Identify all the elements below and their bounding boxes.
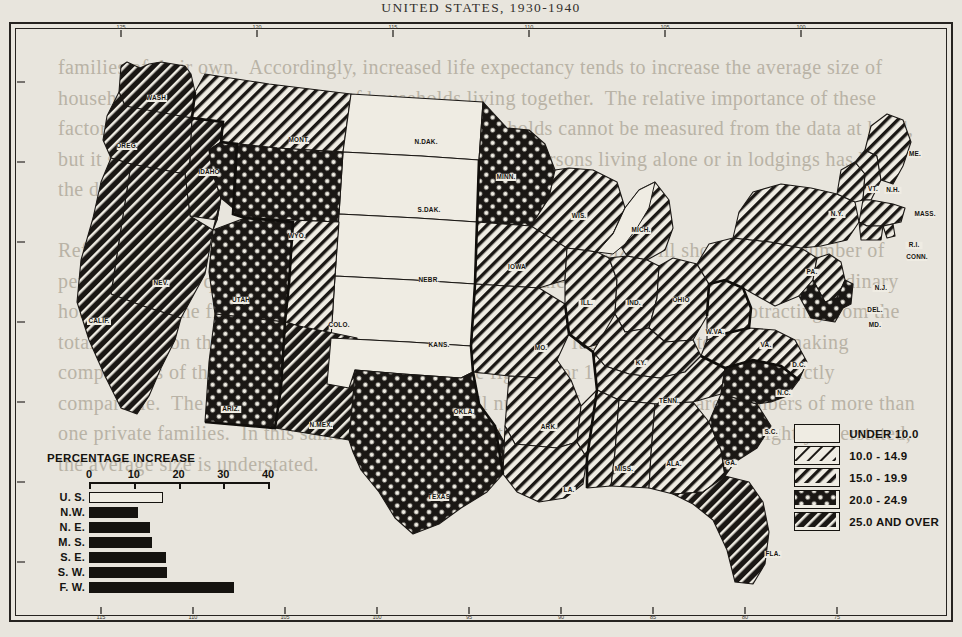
bar-fw bbox=[89, 582, 234, 593]
state-label: N.C. bbox=[777, 389, 791, 396]
bar-track bbox=[89, 492, 282, 503]
state-label: KY. bbox=[636, 359, 647, 366]
bar-us bbox=[89, 492, 163, 503]
state-label: TENN. bbox=[659, 397, 679, 404]
axis-tick-label-20: 20 bbox=[172, 468, 184, 480]
bar-row: S. E. bbox=[47, 551, 282, 565]
svg-text:100: 100 bbox=[372, 614, 381, 620]
state-label: MICH. bbox=[631, 226, 650, 233]
state-label: OHIO bbox=[672, 296, 689, 303]
svg-text:110: 110 bbox=[189, 614, 198, 620]
legend-swatch-crosshatch bbox=[794, 490, 840, 509]
bar-row: N.W. bbox=[47, 506, 282, 520]
bar-label: N.W. bbox=[47, 506, 89, 518]
bar-label: U. S. bbox=[47, 491, 89, 503]
legend-label: 10.0 - 14.9 bbox=[849, 450, 907, 462]
state-ndak bbox=[343, 94, 483, 160]
page-title-text: UNITED STATES, 1930-1940 bbox=[381, 0, 580, 15]
state-label: IND. bbox=[627, 299, 641, 306]
svg-text:110: 110 bbox=[525, 24, 534, 30]
state-label: NEV. bbox=[153, 279, 168, 286]
state-label: N.Y. bbox=[831, 210, 844, 217]
bar-row: N. E. bbox=[47, 521, 282, 535]
state-label: ARIZ. bbox=[222, 405, 240, 412]
state-label: MONT. bbox=[289, 136, 310, 143]
bar-track bbox=[89, 582, 282, 593]
state-label: KANS. bbox=[429, 341, 450, 348]
state-label: WYO. bbox=[288, 232, 306, 239]
svg-text:125: 125 bbox=[116, 24, 125, 30]
bar-track bbox=[89, 522, 282, 533]
svg-text:105: 105 bbox=[660, 24, 669, 30]
bar-track bbox=[89, 507, 282, 518]
bar-ne bbox=[89, 522, 150, 533]
state-label: FLA. bbox=[766, 550, 781, 557]
state-label: VT. bbox=[868, 185, 878, 192]
axis-tick-label-10: 10 bbox=[128, 468, 140, 480]
state-label: CALIF. bbox=[88, 317, 109, 324]
state-label: WASH. bbox=[146, 94, 168, 101]
axis-tick-30 bbox=[223, 482, 225, 489]
bar-label: S. E. bbox=[47, 551, 89, 563]
axis-tick-label-30: 30 bbox=[217, 468, 229, 480]
percentage-increase-inset-chart: PERCENTAGE INCREASE 010203040 U. S.N.W.N… bbox=[47, 452, 282, 594]
inset-chart-axis-labels: 010203040 bbox=[89, 468, 282, 482]
axis-tick-40 bbox=[268, 482, 270, 489]
state-label: ILL. bbox=[581, 299, 593, 306]
state-label: IOWA bbox=[508, 263, 526, 270]
inset-chart-bars: U. S.N.W.N. E.M. S.S. E.S. W.F. W. bbox=[47, 491, 282, 595]
svg-text:100: 100 bbox=[796, 24, 805, 30]
legend-item-2: 10.0 - 14.9 bbox=[794, 446, 939, 465]
state-label: D.C. bbox=[792, 361, 806, 368]
legend-item-5: 25.0 AND OVER bbox=[794, 512, 939, 531]
page-title: UNITED STATES, 1930-1940 bbox=[0, 0, 962, 17]
state-label: DEL. bbox=[867, 306, 882, 313]
state-label: LA. bbox=[564, 486, 575, 493]
state-label: N.H. bbox=[886, 186, 900, 193]
legend-item-3: 15.0 - 19.9 bbox=[794, 468, 939, 487]
legend-item-4: 20.0 - 24.9 bbox=[794, 490, 939, 509]
axis-tick-20 bbox=[179, 482, 181, 489]
bar-label: M. S. bbox=[47, 536, 89, 548]
svg-text:105: 105 bbox=[280, 614, 289, 620]
svg-text:120: 120 bbox=[252, 24, 261, 30]
state-utah bbox=[209, 218, 293, 322]
axis-tick-label-40: 40 bbox=[262, 468, 274, 480]
state-label: S.DAK. bbox=[418, 206, 441, 213]
svg-text:85: 85 bbox=[650, 614, 656, 620]
svg-text:80: 80 bbox=[742, 614, 748, 620]
legend-swatch-diagonal-heavy bbox=[794, 512, 840, 531]
state-label: PA. bbox=[807, 268, 818, 275]
state-kans bbox=[331, 276, 475, 346]
meridian-ticks-bottom: 1151101051009590858075 bbox=[97, 607, 840, 620]
state-label: MINN. bbox=[496, 173, 515, 180]
legend-swatch-blank bbox=[794, 424, 840, 443]
legend-label: 25.0 AND OVER bbox=[849, 516, 939, 528]
map-plate: 125120115110105100 115110105100959085807… bbox=[9, 22, 953, 622]
state-label: N.MEX. bbox=[309, 421, 332, 428]
inset-chart-title: PERCENTAGE INCREASE bbox=[47, 452, 282, 464]
state-label: COLO. bbox=[328, 321, 349, 328]
legend-label: 15.0 - 19.9 bbox=[849, 472, 907, 484]
bar-sw bbox=[89, 567, 167, 578]
state-label: MISS. bbox=[615, 465, 633, 472]
inset-chart-axis-line bbox=[89, 482, 282, 489]
state-label: VA. bbox=[761, 341, 772, 348]
svg-text:95: 95 bbox=[466, 614, 472, 620]
svg-text:115: 115 bbox=[389, 24, 398, 30]
bar-label: N. E. bbox=[47, 521, 89, 533]
state-ri bbox=[883, 224, 895, 238]
axis-tick-10 bbox=[134, 482, 136, 489]
state-label: N.J. bbox=[875, 284, 888, 291]
bar-row: U. S. bbox=[47, 491, 282, 505]
state-label: NEBR. bbox=[419, 276, 440, 283]
state-label: ME. bbox=[909, 150, 921, 157]
state-label: MO. bbox=[535, 344, 548, 351]
bar-se bbox=[89, 552, 166, 563]
state-label: TEXAS bbox=[428, 493, 451, 500]
svg-text:90: 90 bbox=[558, 614, 564, 620]
bar-track bbox=[89, 567, 282, 578]
state-label: IDAHO bbox=[198, 168, 220, 175]
state-label: GA. bbox=[725, 459, 737, 466]
state-label: N.DAK. bbox=[414, 138, 437, 145]
